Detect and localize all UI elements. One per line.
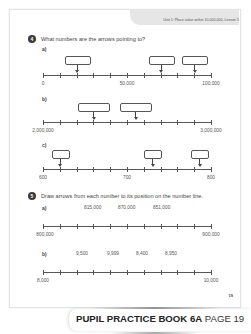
arrow-down-icon — [58, 164, 62, 167]
number-line-4a-start: 0 — [42, 81, 45, 86]
question-5-text: Draw arrows from each number to its posi… — [41, 193, 203, 199]
part-4a-label: a) — [42, 46, 46, 52]
tick-mark — [177, 270, 178, 275]
tick-mark — [144, 120, 145, 125]
tick-mark — [127, 120, 128, 125]
tick-mark — [77, 73, 78, 78]
arrow-down-icon — [92, 117, 96, 120]
tick-mark — [211, 224, 212, 229]
tick-mark — [77, 224, 78, 229]
tick-mark — [211, 270, 212, 275]
footer-book-title: PUPIL PRACTICE BOOK 6A — [76, 313, 202, 324]
number-line-4b-end: 3,000,000 — [200, 128, 221, 133]
answer-box[interactable] — [78, 103, 110, 112]
tick-mark — [161, 224, 162, 229]
tick-mark — [161, 120, 162, 125]
number-line-4c-end: 800 — [207, 175, 215, 180]
page-number: 19 — [229, 293, 233, 298]
footer-text: PUPIL PRACTICE BOOK 6A PAGE 19 — [76, 313, 244, 324]
tick-mark — [93, 224, 94, 229]
part-5a-label: a) — [42, 205, 46, 211]
tick-mark — [43, 270, 44, 275]
tick-mark — [194, 73, 195, 78]
arrow-down-icon — [198, 164, 202, 167]
answer-box[interactable] — [65, 56, 91, 65]
answer-box[interactable] — [52, 150, 70, 159]
tick-mark — [93, 73, 94, 78]
number-line-5a-end: 900,000 — [202, 232, 219, 237]
number-line-4c-start: 600 — [39, 175, 47, 180]
tick-mark — [43, 167, 44, 172]
tick-mark — [161, 270, 162, 275]
number-line-4c-mid: 700 — [123, 175, 131, 180]
tick-mark — [60, 167, 61, 172]
tick-mark — [110, 120, 111, 125]
number-line-4a-end: 100,000 — [202, 81, 219, 86]
value-5b-4: 8,950 — [165, 251, 177, 256]
tick-mark — [77, 270, 78, 275]
tick-mark — [43, 224, 44, 229]
lesson-header-tab — [130, 9, 239, 25]
tick-mark — [194, 120, 195, 125]
number-line-5b-end: 10,000 — [204, 278, 219, 283]
tick-mark — [194, 224, 195, 229]
tick-mark — [93, 167, 94, 172]
number-line-5a-start: 800,000 — [36, 232, 53, 237]
answer-box[interactable] — [191, 150, 209, 159]
tick-mark — [177, 167, 178, 172]
value-5a-3: 851,000 — [153, 205, 170, 210]
number-line-4b-start: 2,000,000 — [32, 128, 53, 133]
tick-mark — [161, 73, 162, 78]
tick-mark — [93, 270, 94, 275]
footer-page: PAGE 19 — [205, 313, 244, 324]
tick-mark — [110, 224, 111, 229]
tick-mark — [211, 73, 212, 78]
tick-mark — [127, 73, 128, 78]
arrow-down-icon — [193, 70, 197, 73]
value-5b-3: 8,400 — [136, 251, 148, 256]
tick-mark — [144, 224, 145, 229]
answer-box[interactable] — [149, 56, 175, 65]
tick-mark — [110, 73, 111, 78]
arrow-down-icon — [159, 70, 163, 73]
tick-mark — [211, 120, 212, 125]
tick-mark — [110, 270, 111, 275]
tick-mark — [43, 120, 44, 125]
tick-mark — [194, 270, 195, 275]
part-4c-label: c) — [42, 142, 46, 148]
question-4-text: What numbers are the arrows pointing to? — [41, 36, 145, 42]
tick-mark — [77, 120, 78, 125]
answer-box[interactable] — [144, 150, 162, 159]
tick-mark — [144, 167, 145, 172]
tick-mark — [43, 73, 44, 78]
tick-mark — [144, 270, 145, 275]
tick-mark — [177, 224, 178, 229]
tick-mark — [60, 270, 61, 275]
answer-box[interactable] — [120, 103, 152, 112]
question-number-4: 4 — [28, 35, 36, 43]
tick-mark — [127, 167, 128, 172]
arrow-down-icon — [75, 70, 79, 73]
part-4b-label: b) — [42, 96, 47, 102]
tick-mark — [177, 73, 178, 78]
tick-mark — [211, 167, 212, 172]
tick-mark — [60, 224, 61, 229]
answer-box[interactable] — [182, 56, 208, 65]
question-number-5: 5 — [28, 192, 36, 200]
tick-mark — [60, 73, 61, 78]
number-line-5b-start: 8,000 — [37, 278, 49, 283]
lesson-header: Unit 1: Place value within 10,000,000, L… — [163, 18, 239, 22]
tick-mark — [60, 120, 61, 125]
tick-mark — [127, 270, 128, 275]
part-5b-label: b) — [42, 251, 47, 257]
value-5a-1: 815,000 — [84, 205, 101, 210]
tick-mark — [177, 120, 178, 125]
tick-mark — [127, 224, 128, 229]
value-5b-2: 9,999 — [107, 251, 119, 256]
arrow-down-icon — [151, 164, 155, 167]
tick-mark — [93, 120, 94, 125]
value-5a-2: 870,000 — [118, 205, 135, 210]
tick-mark — [194, 167, 195, 172]
tick-mark — [77, 167, 78, 172]
number-line-4a-mid: 50,000 — [120, 81, 135, 86]
